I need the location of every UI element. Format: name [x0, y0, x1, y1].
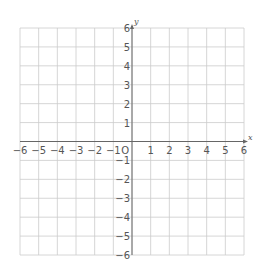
- y-tick-label: −5: [115, 231, 130, 242]
- x-tick-label: −1: [106, 145, 121, 156]
- x-tick-label: 3: [185, 145, 191, 156]
- coordinate-plane: xy−6−5−4−3−2−1123456654321−1−2−3−4−5−6O: [0, 0, 259, 272]
- x-tick-label: 2: [166, 145, 172, 156]
- y-tick-label: 3: [124, 80, 130, 91]
- y-tick-label: −2: [115, 174, 130, 185]
- y-tick-label: 6: [124, 23, 130, 34]
- x-tick-label: −4: [50, 145, 65, 156]
- y-tick-label: 2: [124, 99, 130, 110]
- x-tick-label: 6: [241, 145, 247, 156]
- x-tick-label: −5: [31, 145, 46, 156]
- y-tick-label: −1: [115, 155, 130, 166]
- axes: [20, 24, 248, 255]
- x-tick-label: −3: [69, 145, 84, 156]
- y-axis-label: y: [133, 17, 139, 26]
- y-tick-label: −3: [115, 193, 130, 204]
- tick-labels: xy−6−5−4−3−2−1123456654321−1−2−3−4−5−6O: [13, 17, 253, 261]
- y-tick-label: 5: [124, 42, 130, 53]
- y-tick-label: −6: [115, 250, 130, 261]
- y-tick-label: 4: [124, 61, 130, 72]
- x-tick-label: 4: [203, 145, 209, 156]
- x-axis-label: x: [248, 133, 253, 142]
- x-tick-label: −2: [87, 145, 102, 156]
- origin-label: O: [121, 145, 129, 156]
- y-tick-label: 1: [124, 118, 130, 129]
- x-tick-label: 1: [147, 145, 153, 156]
- x-tick-label: −6: [13, 145, 28, 156]
- x-tick-label: 5: [222, 145, 228, 156]
- y-tick-label: −4: [115, 212, 130, 223]
